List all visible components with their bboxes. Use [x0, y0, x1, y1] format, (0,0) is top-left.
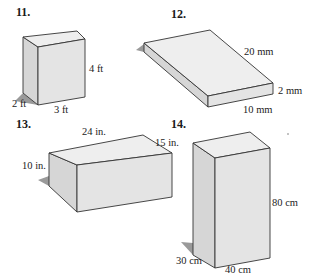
prism-11-front-face	[38, 39, 85, 105]
prism-11-height-label: 4 ft	[89, 63, 103, 74]
prism-11-depth-label: 2 ft	[12, 98, 26, 109]
prism-13-shadow	[38, 176, 49, 186]
prism-13-depth-label: 15 in.	[155, 137, 179, 148]
figure-number-14: 14.	[171, 117, 186, 131]
prism-14-width-label: 40 cm	[225, 264, 251, 275]
figure-number-12: 12.	[171, 7, 186, 21]
prism-14-height-label: 80 cm	[272, 197, 298, 208]
prism-exercises-diagram: 11. 4 ft 2 ft 3 ft 12. 20 mm 2 mm 10 mm …	[0, 0, 315, 278]
figure-12: 12. 20 mm 2 mm 10 mm	[136, 7, 302, 115]
prism-12-height-label: 2 mm	[278, 85, 302, 96]
figure-13: 13. 24 in. 15 in. 10 in.	[16, 117, 179, 212]
prism-12-shadow	[136, 44, 144, 52]
figure-11: 11. 4 ft 2 ft 3 ft	[12, 5, 103, 115]
prism-12-width-label: 10 mm	[243, 104, 272, 115]
prism-12-length-label: 20 mm	[244, 46, 273, 57]
prism-14-shadow	[181, 242, 193, 255]
prism-13-length-label: 24 in.	[82, 126, 106, 137]
prism-14-depth-label: 30 cm	[176, 255, 202, 266]
stray-mark	[287, 133, 289, 135]
figure-number-11: 11.	[16, 5, 30, 19]
prism-14-front-face	[215, 148, 270, 268]
prism-14-side-face	[193, 143, 215, 268]
figure-14: 14. 80 cm 30 cm 40 cm	[171, 117, 298, 275]
figure-number-13: 13.	[16, 117, 31, 131]
prism-13-height-label: 10 in.	[22, 160, 46, 171]
prism-11-width-label: 3 ft	[54, 104, 68, 115]
prism-11-side-face	[23, 37, 38, 105]
